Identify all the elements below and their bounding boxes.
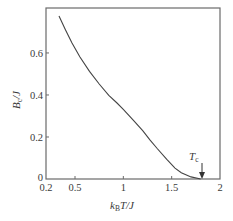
x-tick-label: 1.5: [165, 182, 178, 193]
y-tick-label: 0: [38, 172, 43, 183]
chart: 0.20.511.52 00.20.40.6 Tc kBT/J Bc/J: [0, 0, 233, 221]
x-tick-label: 0.2: [39, 182, 52, 193]
x-tick-label: 1: [121, 182, 126, 193]
data-line: [59, 16, 201, 179]
y-tick-label: 0.6: [30, 48, 43, 59]
y-tick-label: 0.4: [30, 90, 44, 101]
x-tick-label: 2: [217, 182, 222, 193]
y-tick-label: 0.2: [30, 132, 43, 143]
y-axis-label: Bc/J: [10, 90, 24, 109]
tc-annotation: Tc: [189, 150, 205, 179]
x-tick-label: 0.5: [68, 182, 81, 193]
tc-label: Tc: [189, 150, 199, 164]
tc-arrow-head: [199, 172, 205, 179]
x-axis-label: kBT/J: [110, 199, 135, 213]
